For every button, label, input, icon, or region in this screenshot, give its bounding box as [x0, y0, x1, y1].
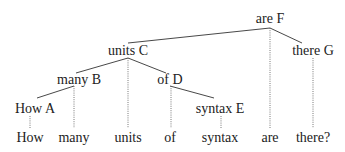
sentence-word: are: [261, 131, 278, 145]
edge-D-E: [170, 86, 214, 98]
sentence-word: there?: [296, 131, 330, 145]
tree-node-G: there G: [292, 44, 334, 58]
sentence-word: How: [16, 131, 43, 145]
tree-node-E: syntax E: [196, 102, 245, 116]
sentence-word: many: [58, 131, 89, 145]
sentence-word: syntax: [202, 131, 239, 145]
edge-C-D: [128, 58, 166, 73]
edge-C-B: [76, 58, 128, 73]
tree-node-B: many B: [57, 73, 101, 87]
sentence-word: of: [164, 131, 176, 145]
dependency-tree-diagram: are Funits Cthere Gmany Bof DHow Asyntax…: [0, 0, 345, 152]
tree-node-F: are F: [256, 12, 284, 26]
tree-node-A: How A: [15, 102, 55, 116]
edge-F-C: [128, 28, 270, 43]
tree-node-D: of D: [157, 73, 182, 87]
edge-F-G: [270, 28, 302, 43]
edge-B-A: [37, 86, 74, 98]
sentence-word: units: [114, 131, 141, 145]
tree-node-C: units C: [108, 44, 148, 58]
